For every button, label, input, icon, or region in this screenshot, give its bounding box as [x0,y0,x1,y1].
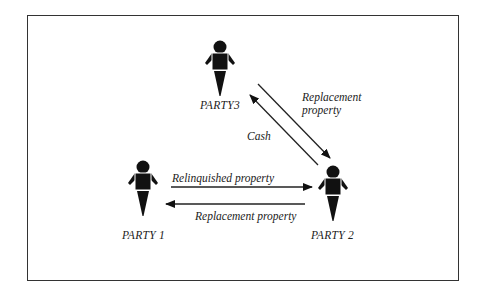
party2-label: PARTY 2 [311,229,354,242]
replacement-label-line1: Replacement [302,91,361,104]
exchange-diagram [0,0,485,296]
party3-figure-icon [205,41,235,97]
replacement-label-line2: property [302,104,341,117]
party1-label: PARTY 1 [122,229,165,242]
party3-label: PARTY3 [200,99,240,112]
party2-figure-icon [318,166,348,222]
cash-label: Cash [247,130,271,143]
relinquished-property-label: Relinquished property [172,172,274,185]
replacement-property-lower-label: Replacement property [195,210,296,223]
party1-figure-icon [128,161,158,217]
